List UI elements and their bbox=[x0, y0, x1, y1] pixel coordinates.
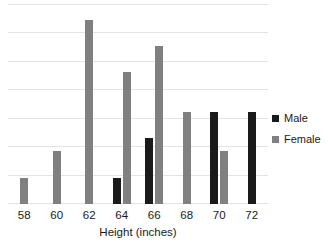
bar-chart: 5860626466687072 Height (inches) Male Fe… bbox=[0, 0, 328, 248]
bar-male-72[interactable] bbox=[248, 112, 256, 204]
bar-female-64[interactable] bbox=[123, 72, 131, 204]
bar-male-70[interactable] bbox=[210, 112, 218, 204]
legend: Male Female bbox=[272, 112, 328, 154]
bar-female-70[interactable] bbox=[220, 151, 228, 204]
legend-item-male[interactable]: Male bbox=[272, 112, 328, 124]
x-axis-tick-labels: 5860626466687072 bbox=[8, 207, 268, 225]
legend-swatch-male-icon bbox=[272, 115, 279, 122]
x-tick-label-72: 72 bbox=[232, 207, 272, 223]
legend-label-male: Male bbox=[284, 112, 308, 124]
bar-female-60[interactable] bbox=[53, 151, 61, 204]
bar-female-58[interactable] bbox=[20, 178, 28, 204]
legend-swatch-female-icon bbox=[272, 136, 279, 143]
legend-item-female[interactable]: Female bbox=[272, 133, 328, 145]
bar-female-62[interactable] bbox=[85, 20, 93, 204]
legend-label-female: Female bbox=[284, 133, 321, 145]
x-axis-title: Height (inches) bbox=[8, 226, 268, 238]
bar-male-64[interactable] bbox=[113, 178, 121, 204]
bar-female-66[interactable] bbox=[155, 46, 163, 204]
bar-female-68[interactable] bbox=[183, 112, 191, 204]
x-axis-line bbox=[8, 204, 268, 205]
bar-male-66[interactable] bbox=[145, 138, 153, 204]
plot-area bbox=[8, 4, 268, 204]
bars-layer bbox=[8, 4, 268, 204]
